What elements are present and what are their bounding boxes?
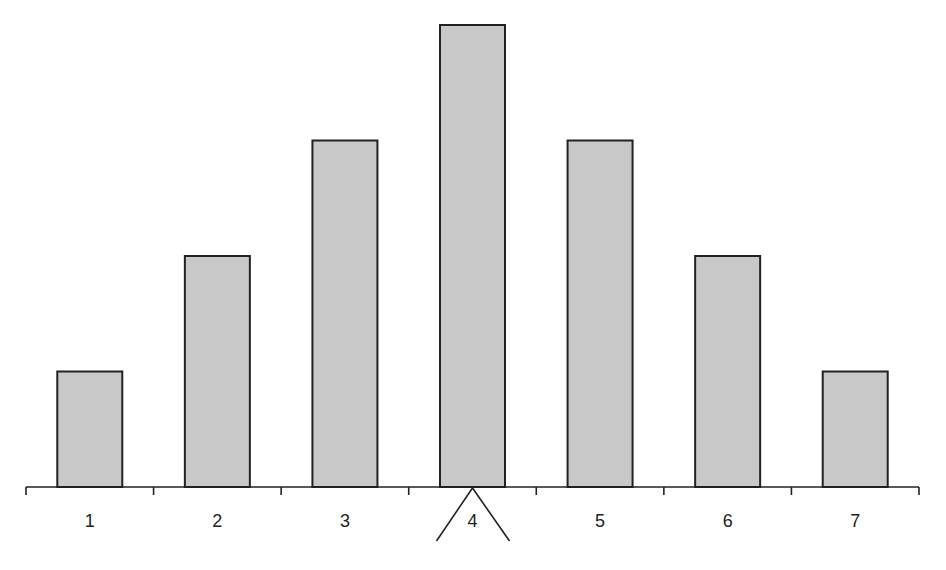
x-axis-labels: 1234567 [85,511,860,531]
bar-5 [568,141,633,488]
bar-2 [185,256,250,487]
bar-1 [57,372,122,488]
bar-4 [440,25,505,487]
x-tick-label: 3 [340,511,350,531]
x-tick-label: 6 [723,511,733,531]
bars-group [57,25,887,487]
x-tick-label: 2 [212,511,222,531]
bar-3 [312,141,377,488]
x-tick-label: 4 [467,511,477,531]
bar-6 [695,256,760,487]
x-tick-label: 5 [595,511,605,531]
x-tick-label: 7 [850,511,860,531]
x-tick-label: 1 [85,511,95,531]
bar-7 [823,372,888,488]
histogram-chart: 1234567 [0,0,946,570]
